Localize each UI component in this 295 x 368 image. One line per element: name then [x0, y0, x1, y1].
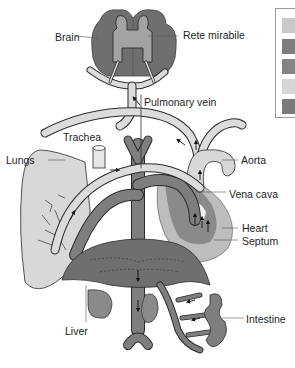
label-vena-cava: Vena cava [229, 188, 278, 200]
legend-swatch [282, 79, 295, 94]
label-liver: Liver [65, 325, 88, 337]
legend [275, 8, 295, 118]
portal-vessels [160, 285, 210, 350]
label-lungs: Lungs [6, 154, 35, 166]
label-pulmonary-vein: Pulmonary vein [144, 96, 216, 108]
label-brain: Brain [55, 31, 80, 43]
label-rete-mirabile: Rete mirabile [183, 29, 245, 41]
label-septum: Septum [242, 235, 278, 247]
label-trachea: Trachea [63, 131, 101, 143]
label-intestine: Intestine [246, 313, 286, 325]
legend-swatch [282, 59, 295, 74]
intestine [204, 294, 226, 347]
legend-swatch [282, 18, 295, 33]
legend-swatch [282, 39, 295, 54]
kidneys [88, 290, 158, 323]
trachea [93, 146, 105, 169]
legend-swatch [282, 99, 295, 114]
label-aorta: Aorta [241, 154, 266, 166]
label-heart: Heart [242, 222, 268, 234]
